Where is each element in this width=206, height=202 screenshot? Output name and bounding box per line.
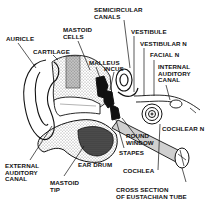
semicircular-canals-shape [116, 69, 138, 96]
label-cochlea: COCHLEA [123, 168, 154, 175]
label-cross-section-eustachian-tube: CROSS SECTION OF EUSTACHIAN TUBE [116, 187, 187, 200]
label-stapes: STAPES [119, 150, 144, 157]
label-cartilage: CARTILAGE [33, 49, 70, 56]
cochlea-shape [142, 104, 162, 124]
label-auricle: AURICLE [6, 36, 34, 43]
label-facial-n: FACIAL N [150, 52, 179, 59]
label-mastoid-tip: MASTOID TIP [50, 180, 79, 193]
label-incus: INCUS [104, 66, 124, 73]
label-vestibule: VESTIBULE [131, 29, 167, 36]
label-cochlear-n: COCHLEAR N [162, 126, 204, 133]
mastoid-cells-shape [66, 56, 80, 88]
label-vestibular-n: VESTIBULAR N [140, 41, 187, 48]
label-round-window: ROUND WINDOW [126, 133, 154, 146]
label-external-auditory-canal: EXTERNAL AUDITORY CANAL [5, 163, 39, 183]
label-ear-drum: EAR DRUM [78, 162, 112, 169]
label-internal-auditory-canal: INTERNAL AUDITORY CANAL [158, 64, 191, 84]
label-semicircular-canals: SEMICIRCULAR CANALS [94, 7, 143, 20]
label-mastoid-cells: MASTOID CELLS [63, 27, 92, 40]
